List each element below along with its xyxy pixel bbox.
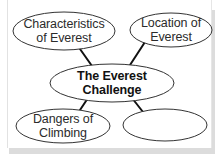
- node-characteristics-label: Characteristics of Everest: [23, 17, 104, 45]
- node-dangers-line2: Climbing: [33, 126, 93, 140]
- central-topic-line1: The Everest: [77, 69, 147, 83]
- connector-top-right: [130, 42, 145, 65]
- node-characteristics-line1: Characteristics: [23, 17, 104, 31]
- node-location-line1: Location of: [141, 16, 201, 30]
- connector-top-left: [80, 49, 92, 66]
- node-characteristics-line2: of Everest: [23, 31, 104, 45]
- central-topic-line2: Challenge: [77, 83, 147, 97]
- node-dangers-label: Dangers of Climbing: [33, 112, 93, 140]
- central-topic-label: The Everest Challenge: [77, 69, 147, 97]
- node-location-label: Location of Everest: [141, 16, 201, 44]
- node-empty-ellipse[interactable]: [123, 109, 207, 141]
- node-dangers-line1: Dangers of: [33, 112, 93, 126]
- node-location-line2: Everest: [141, 30, 201, 44]
